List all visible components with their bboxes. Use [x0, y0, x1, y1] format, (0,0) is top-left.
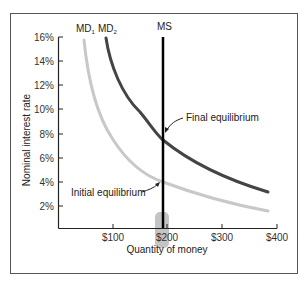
y-tick-label: 10% — [34, 104, 54, 115]
y-tick-label: 14% — [34, 56, 54, 67]
y-tick-label: 6% — [40, 153, 55, 164]
x-tick-label: $200 — [156, 232, 179, 243]
money-market-chart: 16% 14% 12% 10% 8% 6% 4% 2% $100 $200 $3… — [0, 0, 307, 281]
y-tick-label: 2% — [40, 201, 55, 212]
ms-label: MS — [157, 21, 172, 32]
y-tick-label: 8% — [40, 129, 55, 140]
final-equilibrium-label: Final equilibrium — [186, 112, 259, 123]
y-axis-title: Nominal interest rate — [21, 93, 32, 186]
initial-equilibrium-label: Initial equilibrium — [71, 187, 145, 198]
chart-frame — [11, 14, 298, 274]
y-tick-label: 4% — [40, 177, 55, 188]
x-tick-label: $300 — [211, 232, 234, 243]
x-tick-label: $400 — [266, 232, 289, 243]
y-tick-label: 16% — [34, 32, 54, 43]
y-tick-label: 12% — [34, 80, 54, 91]
x-axis-title: Quantity of money — [126, 244, 207, 255]
x-tick-label: $100 — [102, 232, 125, 243]
